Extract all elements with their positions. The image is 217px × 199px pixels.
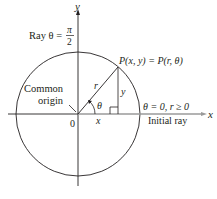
right-angle-mark xyxy=(110,107,118,114)
polar-diagram: y x 0 Ray θ = π 2 Common origin P(x, y) … xyxy=(0,0,217,199)
x-axis-arrow-icon xyxy=(201,112,207,116)
initial-ray-label: Initial ray xyxy=(148,115,187,126)
origin-label: origin xyxy=(38,95,64,106)
origin-pointer xyxy=(69,105,76,112)
r-label: r xyxy=(94,80,98,91)
origin-zero-label: 0 xyxy=(70,118,75,129)
x-axis-label: x xyxy=(207,108,213,120)
common-label: Common xyxy=(24,83,64,94)
initial-condition-label: θ = 0, r ≥ 0 xyxy=(143,101,189,112)
ray-label: Ray θ = xyxy=(29,30,62,41)
ray-fraction-denominator: 2 xyxy=(67,37,72,47)
y-leg-label: y xyxy=(120,86,126,97)
point-label: P(x, y) = P(r, θ) xyxy=(118,55,184,67)
x-leg-label: x xyxy=(95,115,101,126)
ray-fraction-numerator: π xyxy=(67,25,72,35)
theta-label: θ xyxy=(97,100,102,111)
y-axis-label: y xyxy=(74,0,80,12)
